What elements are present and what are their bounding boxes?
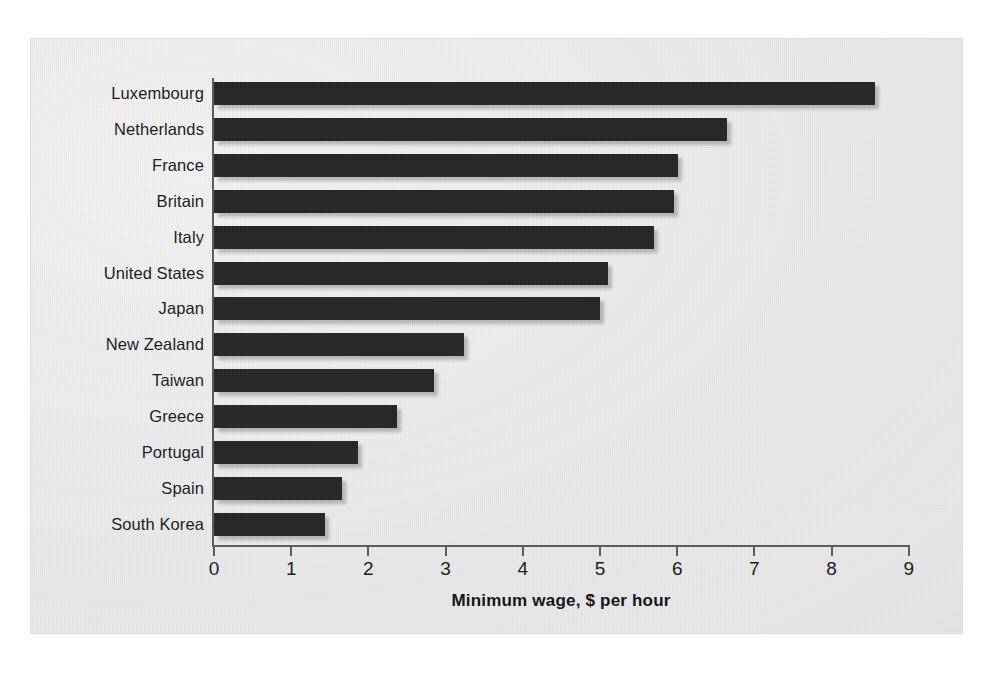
bar xyxy=(214,82,875,105)
x-tick-label: 4 xyxy=(503,559,543,578)
chart-figure: LuxembourgNetherlandsFranceBritainItalyU… xyxy=(0,0,998,677)
category-label: Portugal xyxy=(4,444,204,461)
category-label: Italy xyxy=(4,229,204,246)
category-label: Greece xyxy=(4,408,204,425)
x-tick-mark xyxy=(445,547,447,556)
x-tick-mark xyxy=(599,547,601,556)
x-tick-mark xyxy=(522,547,524,556)
bar xyxy=(214,441,358,464)
bar xyxy=(214,369,434,392)
bar xyxy=(214,513,325,536)
category-label: Taiwan xyxy=(4,372,204,389)
x-tick-label: 7 xyxy=(734,559,774,578)
category-label: Britain xyxy=(4,193,204,210)
category-label: New Zealand xyxy=(4,336,204,353)
bar xyxy=(214,226,654,249)
x-axis-title: Minimum wage, $ per hour xyxy=(212,591,910,611)
bar xyxy=(214,333,464,356)
x-tick-label: 8 xyxy=(812,559,852,578)
bar xyxy=(214,118,727,141)
bar xyxy=(214,262,608,285)
x-tick-label: 1 xyxy=(271,559,311,578)
plot-area: LuxembourgNetherlandsFranceBritainItalyU… xyxy=(30,38,963,634)
x-tick-mark xyxy=(908,547,910,556)
bar xyxy=(214,405,397,428)
category-label: Japan xyxy=(4,300,204,317)
x-tick-mark xyxy=(213,547,215,556)
category-label: South Korea xyxy=(4,516,204,533)
bar xyxy=(214,154,678,177)
x-tick-label: 0 xyxy=(194,559,234,578)
value-axis-line xyxy=(212,545,910,547)
x-tick-mark xyxy=(367,547,369,556)
x-tick-mark xyxy=(831,547,833,556)
x-tick-label: 3 xyxy=(426,559,466,578)
bar xyxy=(214,477,342,500)
category-label: Netherlands xyxy=(4,121,204,138)
category-label: France xyxy=(4,157,204,174)
category-label: United States xyxy=(4,265,204,282)
x-tick-label: 9 xyxy=(889,559,929,578)
category-label: Spain xyxy=(4,480,204,497)
x-tick-label: 6 xyxy=(657,559,697,578)
bar xyxy=(214,190,674,213)
chart-panel: LuxembourgNetherlandsFranceBritainItalyU… xyxy=(30,38,963,634)
bar xyxy=(214,297,600,320)
x-tick-mark xyxy=(290,547,292,556)
x-tick-label: 5 xyxy=(580,559,620,578)
x-tick-label: 2 xyxy=(348,559,388,578)
x-tick-mark xyxy=(676,547,678,556)
x-tick-mark xyxy=(753,547,755,556)
category-label: Luxembourg xyxy=(4,85,204,102)
